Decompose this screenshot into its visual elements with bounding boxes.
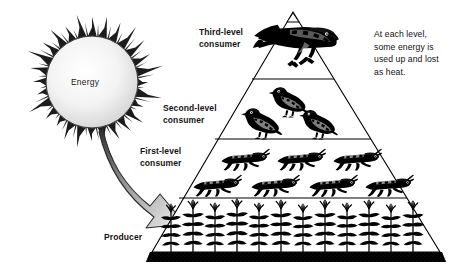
third-level-consumer-label: Third-level consumer	[199, 27, 243, 50]
second-level-consumer-label: Second-level consumer	[163, 103, 217, 126]
first-level-consumer-label: First-level consumer	[140, 146, 181, 169]
energy-label: Energy	[71, 77, 99, 87]
energy-pyramid-diagram: Energy Third-level consumer Second-level…	[0, 0, 455, 275]
producer-label: Producer	[104, 232, 142, 244]
energy-loss-note: At each level, some energy is used up an…	[374, 28, 439, 78]
curved-arrow-icon	[99, 129, 185, 228]
ground-bar	[146, 252, 446, 262]
